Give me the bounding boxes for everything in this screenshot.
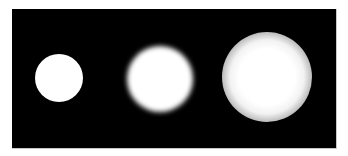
heavily-blurred-white-circle [222,32,312,122]
sharp-white-circle [35,54,83,102]
black-panel [12,9,337,149]
slightly-blurred-white-circle [127,46,193,112]
figure-canvas [0,0,348,156]
